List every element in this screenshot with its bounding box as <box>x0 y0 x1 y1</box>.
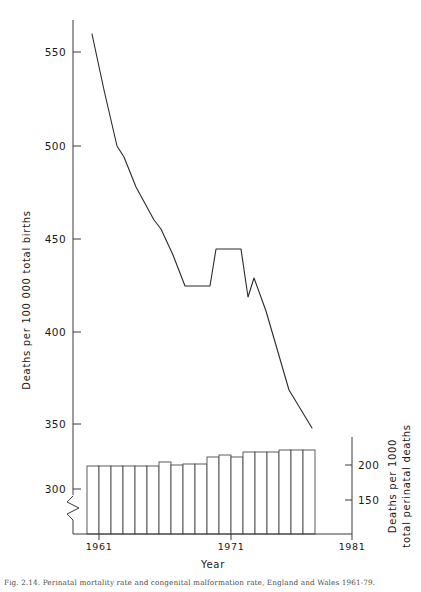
bar-series-group <box>87 450 315 534</box>
line-series-group <box>92 34 312 428</box>
xtick-label-1971: 1971 <box>218 541 245 552</box>
figure-container: 550 500 450 400 350 300 Deaths per 100 0… <box>0 0 421 592</box>
bar-1969 <box>183 464 195 534</box>
ytick-label-500: 500 <box>45 140 66 152</box>
bar-1961 <box>87 466 99 534</box>
bar-1975 <box>255 452 267 534</box>
y2tick-label-150: 150 <box>358 494 379 506</box>
bar-1970 <box>195 464 207 534</box>
left-axis-ticks <box>73 52 81 489</box>
bar-1962 <box>99 466 111 534</box>
bar-1966 <box>147 466 159 534</box>
xtick-label-1961: 1961 <box>86 541 113 552</box>
bar-1971 <box>207 457 219 534</box>
bar-1964 <box>123 466 135 534</box>
ytick-label-300: 300 <box>45 483 66 495</box>
congenital-malformation-rate-line <box>92 34 312 428</box>
chart-svg: 550 500 450 400 350 300 Deaths per 100 0… <box>0 0 421 592</box>
bar-1979 <box>303 450 315 534</box>
left-axis-title: Deaths per 100 000 total births <box>21 210 32 389</box>
figure-caption: Fig. 2.14. Perinatal mortality rate and … <box>4 578 417 587</box>
right-axis-title-line1: Deaths per 1000 <box>387 439 398 533</box>
y2tick-label-200: 200 <box>358 459 379 471</box>
bar-1976 <box>267 452 279 534</box>
ytick-label-550: 550 <box>45 46 66 58</box>
axis-break-zigzag <box>67 496 79 520</box>
bar-1968 <box>171 465 183 534</box>
bar-1977 <box>279 450 291 534</box>
ytick-label-400: 400 <box>45 326 66 338</box>
x-axis-ticks <box>99 534 352 540</box>
right-axis-title-line2: total perinatal deaths <box>401 424 412 547</box>
bar-1972 <box>219 455 231 534</box>
bar-1978 <box>291 450 303 534</box>
x-axis-group: 1961 1971 1981 Year <box>73 534 365 570</box>
left-axis-group: 550 500 450 400 350 300 Deaths per 100 0… <box>21 20 81 534</box>
bar-1973 <box>231 457 243 534</box>
x-axis-title: Year <box>200 559 225 570</box>
bar-1963 <box>111 466 123 534</box>
bar-1974 <box>243 452 255 534</box>
ytick-label-450: 450 <box>45 233 66 245</box>
bar-1965 <box>135 466 147 534</box>
bar-1967 <box>159 462 171 534</box>
right-axis-group: 200 150 Deaths per 1000 total perinatal … <box>345 424 412 547</box>
ytick-label-350: 350 <box>45 418 66 430</box>
xtick-label-1981: 1981 <box>339 541 366 552</box>
